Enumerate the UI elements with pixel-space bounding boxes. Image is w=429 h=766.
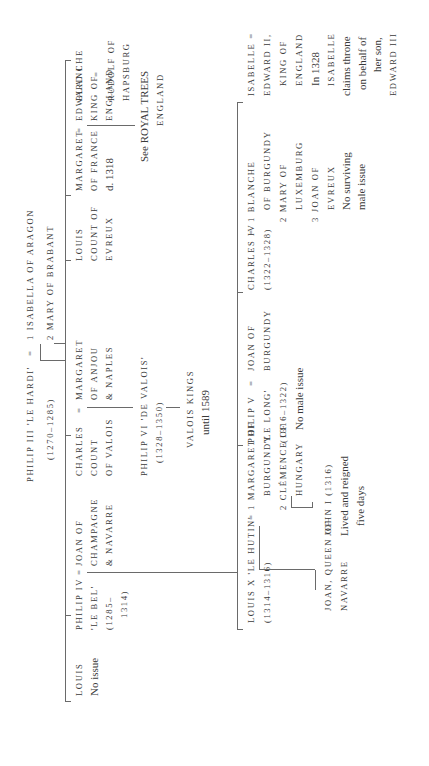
gen2-bar	[65, 61, 66, 702]
tick-charles4	[237, 292, 243, 293]
philip4-descent-line	[87, 572, 237, 573]
charles-eq: =	[75, 407, 84, 413]
genealogy-diagram: PHILIP III 'LE HARDI' = (1270–1285) 1 IS…	[0, 0, 429, 766]
charles4-s3-l1: 3 JOAN OF	[311, 166, 320, 222]
charles-title-2: OF VALOIS	[105, 418, 114, 476]
louis-evreux-l2: COUNT OF	[90, 206, 99, 261]
philip5-dates: (1316–1322)	[279, 381, 288, 443]
rudolf-l1: RUDOLF OF	[107, 39, 116, 101]
tick-louis	[65, 701, 71, 702]
blanche-eq: =	[92, 71, 101, 77]
charles4-s3-l2: EVREUX	[327, 166, 336, 210]
blanche-name: BLANCHE	[75, 49, 84, 101]
root-drop-1	[40, 360, 65, 361]
tick-philip5	[237, 445, 243, 446]
philip4-eq: =	[75, 569, 84, 575]
isabelle-l6: ISABELLE	[327, 33, 336, 86]
philip4-name: PHILIP IV	[75, 578, 84, 630]
tick-louis-evreux	[65, 260, 71, 261]
john1-l1: JOHN I (1316)	[324, 463, 333, 536]
charles4-s1-l2: OF BURGUNDY	[263, 131, 272, 210]
root-spouse-2: 2 MARY OF BRABANT	[46, 225, 55, 340]
john1-l2: Lived and reigned	[339, 456, 350, 536]
louis-evreux-l1: LOUIS	[75, 228, 84, 261]
louis10-eq: =	[247, 514, 256, 520]
charles-spouse-l2: OF ANJOU	[90, 346, 99, 400]
charles4-s2-l2: LUXEMBURG	[295, 141, 304, 210]
philip4-dates-1: (1285–	[105, 596, 114, 630]
tick-charles	[65, 435, 71, 436]
philip6-dates: (1328–1350)	[155, 401, 164, 463]
louis10-m1-line	[259, 526, 260, 570]
philip4-dates-2: 1314)	[120, 590, 129, 618]
isabelle-l5: In 1328	[310, 52, 321, 86]
charles-spouse-l3: & NAPLES	[105, 346, 114, 400]
charles-title-1: COUNT	[90, 438, 99, 476]
charles-descent-line	[87, 407, 133, 408]
isabelle-l9: her son,	[372, 37, 383, 72]
philip5-note: No male issue	[294, 368, 305, 430]
margaret-l3: d. 1318	[104, 158, 115, 191]
isabelle-l4: ENGLAND	[295, 33, 304, 86]
louis10-spouse1-l2: BURGUNDY	[263, 434, 272, 496]
valois-kings-l1: VALOIS KINGS	[186, 370, 195, 448]
philip4-spouse-l3: & NAVARRE	[105, 503, 114, 566]
louis10-dates: (1314–1316)	[263, 561, 272, 623]
philip4-epithet: 'LE BEL'	[90, 585, 99, 630]
charles4-note-l1: No surviving	[341, 152, 352, 210]
philip5-eq: =	[247, 380, 256, 386]
tick-blanche	[65, 60, 71, 61]
rudolf-l2: HAPSBURG	[122, 42, 131, 101]
john1-tick	[312, 502, 313, 508]
see-royal-trees-l2: ENGLAND	[156, 73, 165, 126]
root-eq: =	[26, 350, 35, 356]
charles4-eq: =	[247, 229, 256, 235]
tick-isabelle	[237, 102, 243, 103]
louis10-m2-drop	[291, 507, 312, 508]
margaret-eq: =	[75, 127, 84, 133]
root-spouse-1: 1 ISABELLA OF ARAGON	[26, 209, 35, 340]
isabelle-l3: KING OF	[279, 40, 288, 86]
philip6-name: PHILIP VI 'DE VALOIS'	[140, 356, 149, 476]
valois-kings-l2: until 1589	[200, 390, 211, 435]
root-dates: (1270–1285)	[46, 398, 55, 460]
charles-spouse-l1: MARGARET	[75, 339, 84, 400]
louis-name: LOUIS	[75, 663, 84, 696]
see-royal-trees-l1: See ROYAL TREES	[139, 71, 150, 162]
john1-l3: five days	[355, 486, 366, 526]
isabelle-l2: EDWARD II,	[263, 33, 272, 96]
charles4-note-l2: male issue	[356, 164, 367, 210]
root-drop-2	[54, 343, 65, 344]
gen3-bar	[237, 103, 238, 630]
tick-louis10	[237, 629, 243, 630]
philip6-descent-line	[166, 407, 180, 408]
charles4-dates: (1322–1328)	[263, 228, 272, 290]
philip4-spouse-l2: CHAMPAGNE	[90, 498, 99, 566]
joan-navarre-tick	[315, 570, 316, 590]
louis10-spouse2-l2: HUNGARY	[295, 442, 304, 496]
philip5-spouse-l2: BURGUNDY	[263, 309, 272, 371]
louis10-name: LOUIS X 'LE HUTIN'	[247, 516, 256, 623]
louis10-m1-drop	[259, 569, 315, 570]
root-line-1	[40, 344, 41, 361]
louis-note: No issue	[89, 658, 100, 696]
isabelle-l7: claims throne	[341, 36, 352, 96]
philip4-spouse-l1: JOAN OF	[75, 520, 84, 566]
isabelle-l8: on behalf of	[357, 37, 368, 90]
margaret-l2: OF FRANCE	[90, 130, 99, 191]
margaret-name: MARGARET	[75, 130, 84, 191]
philip5-name: PHILIP V	[247, 396, 256, 443]
charles-name: CHARLES	[75, 426, 84, 476]
philip5-epithet: 'LE LONG'	[263, 389, 272, 443]
tick-margaret	[65, 195, 71, 196]
charles4-s2-l1: 2 MARY OF	[279, 163, 288, 222]
edward1-l2: KING OF	[90, 75, 99, 121]
philip5-spouse-l1: JOAN OF	[247, 325, 256, 371]
tick-philip4	[65, 615, 71, 616]
margaret-descent-line	[87, 125, 135, 126]
isabelle-l1: ISABELLE =	[247, 32, 256, 96]
louis-evreux-l3: EVREUX	[105, 217, 114, 261]
charles4-s1-l1: 1 BLANCHE	[247, 161, 256, 222]
root-name: PHILIP III 'LE HARDI'	[26, 366, 35, 482]
joan-navarre-l2: NAVARRE	[340, 560, 349, 611]
